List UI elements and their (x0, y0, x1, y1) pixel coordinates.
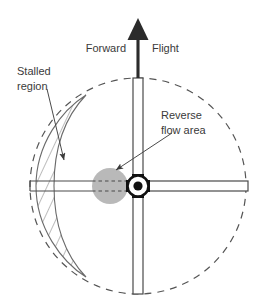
rotor-blade-right (146, 181, 248, 191)
reverse-flow-leader (116, 133, 172, 170)
flight-direction-arrow (128, 18, 149, 78)
label-reverse-flow-line1: Reverse (161, 109, 202, 121)
stalled-region (24, 80, 104, 295)
label-forward: Forward (86, 42, 126, 54)
rotor-hub (126, 174, 150, 198)
reverse-flow-area (92, 168, 128, 204)
rotor-disk-diagram: Forward Flight Stalled region Reverse fl… (0, 0, 262, 305)
label-stalled-region-line1: Stalled (17, 65, 51, 77)
label-flight: Flight (152, 42, 179, 54)
rotor-blade-bottom (133, 194, 143, 294)
label-stalled-region-line2: region (17, 80, 48, 92)
label-reverse-flow-line2: flow area (161, 124, 207, 136)
diagram-canvas: Forward Flight Stalled region Reverse fl… (0, 0, 262, 305)
rotor-blade-top (133, 78, 143, 178)
